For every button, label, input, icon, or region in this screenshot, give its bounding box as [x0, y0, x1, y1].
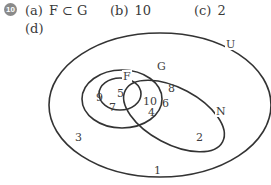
- region-n-only: 2: [196, 131, 203, 144]
- region-g-only-left: 9: [96, 91, 103, 104]
- region-outside-bottom: 1: [154, 164, 161, 177]
- region-u-only: 3: [75, 131, 82, 144]
- venn-diagram: U G F N 9 5 10 8 6 7 4 3 2 1: [0, 0, 271, 185]
- region-g-n-bottom: 4: [148, 106, 155, 119]
- set-f-label: F: [123, 70, 131, 83]
- set-g-label: G: [157, 60, 166, 73]
- universal-set-label: U: [226, 38, 235, 51]
- region-f-only: 5: [117, 87, 124, 100]
- region-g-n: 6: [162, 97, 169, 110]
- region-g-only-bottom: 7: [109, 101, 116, 114]
- set-n-label: N: [216, 105, 226, 118]
- region-g-only-right: 8: [168, 82, 175, 95]
